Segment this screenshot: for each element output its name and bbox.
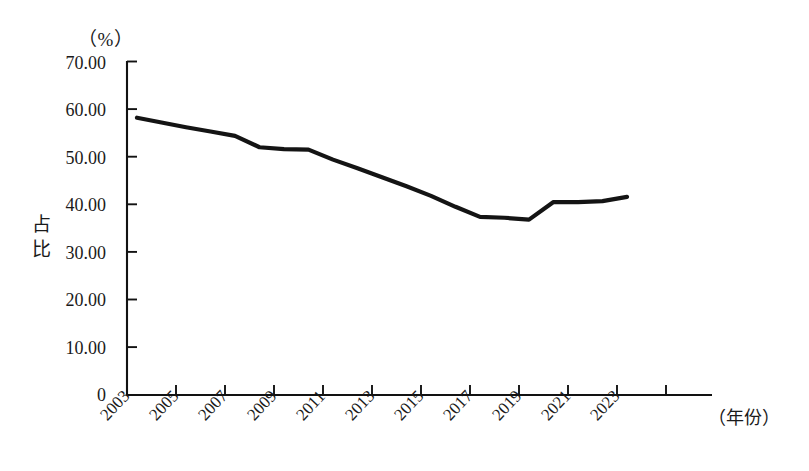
y-tick-label-0: 0 (34, 386, 106, 404)
y-tick-label-40: 40.00 (34, 196, 106, 214)
line-chart-figure: （%） 占比 （年份） 0 10.00 20.00 30.00 40.00 50… (0, 0, 809, 471)
y-tick-label-20: 20.00 (34, 291, 106, 309)
y-tick-label-30: 30.00 (34, 244, 106, 262)
y-tick-label-10: 10.00 (34, 339, 106, 357)
y-tick-label-70: 70.00 (34, 54, 106, 72)
y-axis-ticks (127, 62, 137, 348)
data-series-line (137, 118, 627, 220)
y-tick-label-50: 50.00 (34, 149, 106, 167)
x-axis-unit-label: （年份） (708, 403, 780, 429)
y-axis-unit-label: （%） (78, 24, 133, 51)
y-tick-label-60: 60.00 (34, 101, 106, 119)
